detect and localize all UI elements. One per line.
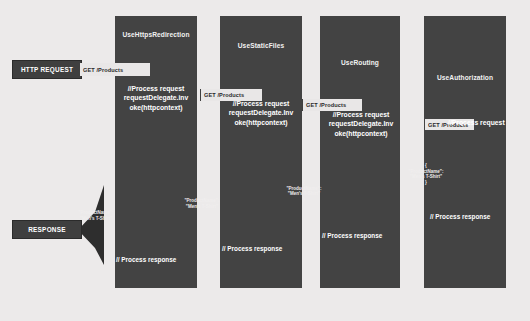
code-block-2: //Process request requestDelegate.Inv ok… xyxy=(214,99,308,127)
request-label-text: GET /Products xyxy=(83,67,123,73)
code-block-4: //Process request xyxy=(448,118,528,127)
middleware-column-4[interactable]: UseAuthorization xyxy=(424,16,506,288)
response-text-3: // Process response xyxy=(322,232,382,239)
payload-3: { "ProductName": "Men's T-Shirt" } xyxy=(278,180,330,202)
request-label-1: GET /Products xyxy=(80,63,150,76)
request-label-text: GET /Products xyxy=(306,102,346,108)
request-label-text: GET /Products xyxy=(204,92,244,98)
response-box[interactable]: RESPONSE xyxy=(12,220,82,239)
http-request-label: HTTP REQUEST xyxy=(21,66,73,73)
diagram-canvas: UseHttpsRedirection UseStaticFiles UseRo… xyxy=(0,0,530,321)
code-block-1: //Process request requestDelegate.inv ok… xyxy=(110,84,202,112)
middleware-column-3[interactable]: UseRouting xyxy=(320,16,400,288)
response-text-2: // Process response xyxy=(222,245,282,252)
column-title: UseStaticFiles xyxy=(220,42,302,49)
code-block-3: //Process request requestDelegate.Inv ok… xyxy=(315,110,407,138)
response-text-1: // Process response xyxy=(116,256,176,263)
payload-4: { "ProductName": "Men's T-Shirt" } xyxy=(400,163,452,185)
response-text-4: // Process response xyxy=(430,213,490,220)
column-title: UseAuthorization xyxy=(424,74,506,81)
column-title: UseHttpsRedirection xyxy=(115,31,197,38)
http-request-box[interactable]: HTTP REQUEST xyxy=(12,60,82,79)
response-label: RESPONSE xyxy=(28,226,66,233)
column-title: UseRouting xyxy=(320,59,400,66)
payload-2: "ProductName": "Men's T-Shirt" xyxy=(176,198,228,209)
payload-1: "ProductName": "Men's T-Shirt" xyxy=(70,210,122,221)
middleware-column-1[interactable]: UseHttpsRedirection xyxy=(115,16,197,288)
